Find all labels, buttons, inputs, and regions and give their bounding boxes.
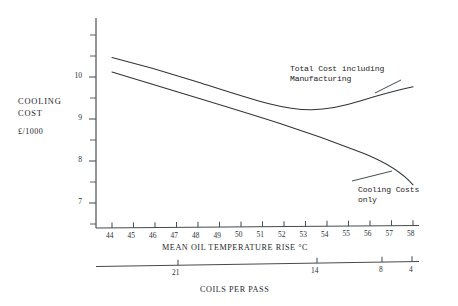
x-tick-label-57: 57	[386, 229, 394, 238]
annotation-cooling-cost: Cooling Costs only	[358, 185, 419, 204]
x-tick-label-54: 54	[321, 230, 329, 239]
x-tick-label-45: 45	[128, 231, 136, 240]
y-axis-unit: £/1000	[18, 127, 43, 136]
x-tick-label-48: 48	[192, 231, 200, 240]
x-tick-label-51: 51	[257, 230, 265, 239]
x-tick-label-58: 58	[407, 229, 415, 238]
y-tick-label-10: 10	[62, 71, 82, 80]
x-tick-label-55: 55	[343, 229, 351, 238]
x-tick-label-53: 53	[300, 230, 308, 239]
coils-tick-label-8: 8	[379, 265, 383, 274]
coils-tick-label-14: 14	[311, 266, 319, 275]
y-tick-label-9: 9	[62, 113, 82, 122]
x-tick-label-56: 56	[364, 229, 372, 238]
x-axis-title: MEAN OIL TEMPERATURE RISE °C	[162, 243, 308, 252]
secondary-axis-spine	[96, 262, 419, 267]
y-tick-label-8: 8	[62, 155, 82, 164]
x-tick-label-44: 44	[106, 231, 114, 240]
coils-tick-label-4: 4	[409, 265, 413, 274]
x-tick-label-47: 47	[171, 231, 179, 240]
secondary-axis-title: COILS PER PASS	[200, 285, 269, 294]
chart-figure: 10 9 8 7 COOLING COST £/1000 44 45 46 47…	[0, 0, 458, 306]
leader-line-cooling-cost	[352, 171, 392, 181]
x-tick-label-52: 52	[278, 230, 286, 239]
y-axis-minor-ticks	[90, 35, 96, 224]
chart-canvas	[0, 0, 458, 306]
y-tick-label-7: 7	[62, 197, 82, 206]
series-cooling-cost-line	[112, 72, 413, 185]
coils-tick-label-21: 21	[172, 268, 180, 277]
y-axis-title: COOLING COST	[18, 96, 62, 119]
x-tick-label-50: 50	[235, 230, 243, 239]
x-tick-label-46: 46	[149, 231, 157, 240]
annotation-total-cost: Total Cost including Manufacturing	[290, 64, 384, 83]
x-axis-spine	[96, 226, 419, 229]
x-tick-label-49: 49	[214, 231, 222, 240]
